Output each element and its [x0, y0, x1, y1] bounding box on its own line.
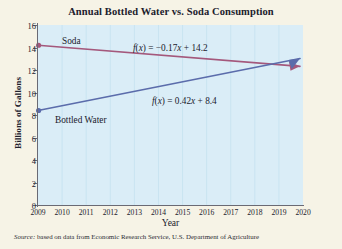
source-note: Source: based on data from Economic Rese… — [14, 233, 259, 240]
y-axis-title: Billions of Gallons — [13, 53, 23, 173]
source-text: based on data from Economic Research Ser… — [35, 233, 259, 240]
y-tick-label-14: 14 — [0, 44, 36, 54]
x-axis-title: Year — [38, 218, 303, 228]
series-label-soda: Soda — [62, 36, 81, 46]
y-axis-line — [37, 23, 38, 207]
x-tick-label-2020: 2020 — [288, 208, 318, 217]
source-prefix: Source: — [14, 233, 35, 240]
chart-figure: Annual Bottled Water vs. Soda Consumptio… — [0, 0, 342, 249]
y-tick-label-2: 2 — [0, 179, 36, 189]
soda-equation-annotation: f(x) = −0.17x + 14.2 — [133, 43, 208, 53]
y-tick-label-16: 16 — [0, 21, 36, 31]
x-axis-line — [37, 205, 304, 206]
chart-title: Annual Bottled Water vs. Soda Consumptio… — [0, 6, 342, 17]
bottled-water-equation-annotation: f(x) = 0.42x + 8.4 — [152, 96, 217, 106]
series-label-bottled-water: Bottled Water — [55, 115, 107, 125]
